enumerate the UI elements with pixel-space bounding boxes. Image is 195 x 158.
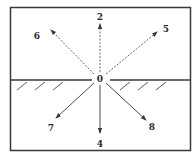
- ray-6-label: 6: [34, 31, 40, 41]
- ray-5-arrow: [106, 32, 157, 74]
- hatch-mark: [53, 82, 63, 90]
- ray-4-label: 4: [97, 139, 103, 149]
- ray-7-arrow: [56, 83, 94, 118]
- hatch-mark: [120, 82, 130, 90]
- hatch-mark: [156, 82, 166, 90]
- hatch-mark: [35, 82, 45, 90]
- surface-hatching: [17, 82, 166, 90]
- ray-6-arrow: [51, 30, 94, 74]
- origin-label: 0: [97, 74, 103, 84]
- ray-7-label: 7: [48, 123, 54, 133]
- upper-rays: [51, 24, 157, 74]
- ray-2-label: 2: [97, 12, 103, 22]
- hatch-mark: [17, 82, 27, 90]
- ray-diagram: 0 2 5 6 7 4 8: [0, 0, 195, 158]
- ray-5-label: 5: [163, 24, 169, 34]
- lower-rays: [56, 83, 146, 133]
- hatch-mark: [138, 82, 148, 90]
- ray-8-label: 8: [149, 122, 155, 132]
